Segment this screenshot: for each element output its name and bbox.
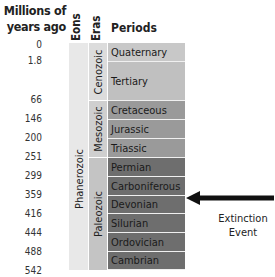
tick-label: 1.8 xyxy=(0,55,42,66)
extinction-event-label: Extinction Event xyxy=(214,212,272,240)
eras-header: Eras xyxy=(89,16,103,41)
years-ago-header: Millions of years ago xyxy=(2,3,66,35)
period-devonian: Devonian xyxy=(108,196,185,214)
period-cambrian: Cambrian xyxy=(108,252,185,270)
tick-label: 200 xyxy=(0,132,42,143)
period-permian: Permian xyxy=(108,158,185,177)
arrow-left-icon xyxy=(186,191,274,205)
eon-label: Phanerozoic xyxy=(72,149,85,209)
period-ordovician: Ordovician xyxy=(108,233,185,252)
period-silurian: Silurian xyxy=(108,214,185,233)
era-paleozoic: Paleozoic xyxy=(89,158,107,270)
era-cenozoic: Cenozoic xyxy=(89,43,107,100)
period-triassic: Triassic xyxy=(108,139,185,158)
tick-label: 488 xyxy=(0,246,42,257)
tick-label: 542 xyxy=(0,265,42,276)
tick-label: 146 xyxy=(0,113,42,124)
tick-label: 359 xyxy=(0,189,42,200)
tick-label: 0 xyxy=(0,39,42,50)
tick-label: 416 xyxy=(0,208,42,219)
era-label: Paleozoic xyxy=(92,191,105,237)
tick-label: 66 xyxy=(0,94,42,105)
eons-header: Eons xyxy=(69,13,83,41)
period-jurassic: Jurassic xyxy=(108,120,185,139)
era-label: Mesozoic xyxy=(92,106,105,151)
era-label: Cenozoic xyxy=(92,49,105,94)
tick-label: 251 xyxy=(0,151,42,162)
tick-label: 299 xyxy=(0,170,42,181)
annotation-line-1: Extinction xyxy=(214,212,272,226)
period-tertiary: Tertiary xyxy=(108,62,185,101)
tick-label: 444 xyxy=(0,227,42,238)
eon-phanerozoic: Phanerozoic xyxy=(69,43,88,270)
annotation-line-2: Event xyxy=(214,226,272,240)
period-cretaceous: Cretaceous xyxy=(108,101,185,120)
period-carboniferous: Carboniferous xyxy=(108,177,185,196)
era-mesozoic: Mesozoic xyxy=(89,101,107,157)
period-quaternary: Quaternary xyxy=(108,43,185,62)
periods-header: Periods xyxy=(111,21,157,35)
